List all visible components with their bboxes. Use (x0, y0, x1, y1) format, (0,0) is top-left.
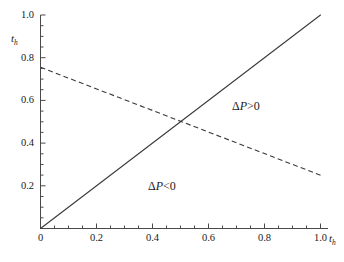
chart-background (0, 0, 344, 262)
x-axis-title-subscript: h (332, 238, 336, 247)
plot-canvas (0, 0, 344, 262)
p-variable-negative: P (156, 179, 163, 193)
p-variable-positive: P (240, 99, 247, 113)
x-tick-label-06: 0.6 (202, 233, 215, 244)
delta-symbol-positive: Δ (232, 99, 240, 113)
x-tick-label-1: 1.0 (314, 233, 327, 244)
annotation-delta-p-positive: ΔP>0 (232, 100, 260, 112)
y-tick-label-08: 0.8 (8, 52, 34, 63)
x-tick-label-08: 0.8 (258, 233, 271, 244)
x-tick-label-0: 0 (38, 233, 43, 244)
y-axis-title-subscript: h (14, 38, 18, 47)
chart-figure: 1.0 0.8 0.6 0.4 0.2 0 0.2 0.4 0.6 0.8 1.… (0, 0, 344, 262)
relation-positive: >0 (247, 99, 260, 113)
y-axis-title: th (11, 33, 18, 47)
relation-negative: <0 (163, 179, 176, 193)
y-tick-label-04: 0.4 (8, 138, 34, 149)
x-tick-label-02: 0.2 (90, 233, 103, 244)
annotation-delta-p-negative: ΔP<0 (148, 180, 176, 192)
y-tick-label-06: 0.6 (8, 95, 34, 106)
y-tick-label-1: 1.0 (8, 10, 34, 21)
x-tick-label-04: 0.4 (146, 233, 159, 244)
x-axis-title: th (329, 233, 336, 247)
y-tick-label-02: 0.2 (8, 181, 34, 192)
delta-symbol-negative: Δ (148, 179, 156, 193)
